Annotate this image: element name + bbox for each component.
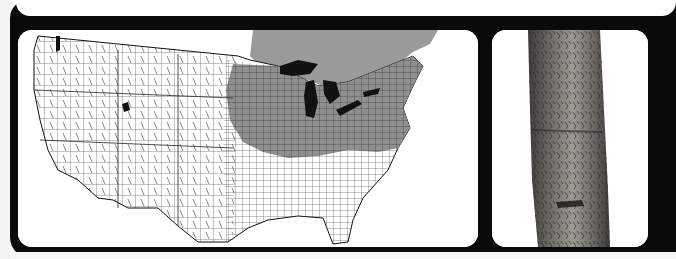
puget-sound	[56, 36, 60, 52]
bark-photo-card	[492, 30, 648, 247]
top-band	[16, 0, 676, 16]
bark-photo	[492, 30, 648, 247]
range-map	[18, 30, 478, 247]
page-bottom-edge	[10, 252, 676, 259]
range-map-card	[18, 30, 478, 247]
